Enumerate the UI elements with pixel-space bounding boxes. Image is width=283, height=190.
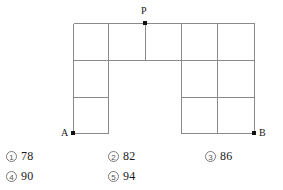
answer-option-5[interactable]: 5 94 xyxy=(108,169,135,184)
vertex-dot-a xyxy=(71,131,75,135)
option-value: 86 xyxy=(220,149,232,164)
answer-option-3[interactable]: 3 86 xyxy=(205,149,232,164)
grid-diagram xyxy=(0,0,283,148)
grid-vertex-dots xyxy=(71,21,256,135)
option-marker-icon: 5 xyxy=(108,171,119,182)
option-marker-icon: 1 xyxy=(6,151,17,162)
grid-horizontal-lines xyxy=(74,24,255,134)
grid-vertical-lines xyxy=(74,24,255,134)
vertex-label-b: B xyxy=(259,128,266,138)
vertex-dot-p xyxy=(143,21,147,25)
figure-area: P A B xyxy=(0,0,283,148)
answer-option-1[interactable]: 1 78 xyxy=(6,149,33,164)
option-value: 78 xyxy=(21,149,33,164)
vertex-label-p: P xyxy=(141,6,147,16)
option-marker-icon: 2 xyxy=(108,151,119,162)
option-value: 82 xyxy=(123,149,135,164)
answer-options-row-2: 4 90 5 94 xyxy=(0,169,283,189)
answer-option-4[interactable]: 4 90 xyxy=(6,169,33,184)
answer-option-2[interactable]: 2 82 xyxy=(108,149,135,164)
option-marker-icon: 3 xyxy=(205,151,216,162)
vertex-label-a: A xyxy=(61,128,68,138)
answer-options: 1 78 2 82 3 86 4 90 5 94 xyxy=(0,147,283,190)
answer-options-row-1: 1 78 2 82 3 86 xyxy=(0,149,283,169)
option-value: 94 xyxy=(123,169,135,184)
vertex-dot-b xyxy=(252,131,256,135)
option-value: 90 xyxy=(21,169,33,184)
option-marker-icon: 4 xyxy=(6,171,17,182)
